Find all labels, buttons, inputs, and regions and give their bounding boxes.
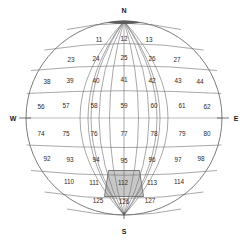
grid-cell-label-23[interactable]: 23 xyxy=(67,56,75,63)
cardinal-label-east: E xyxy=(234,115,239,122)
grid-cell-label-40[interactable]: 40 xyxy=(92,77,100,84)
grid-cell-label-93[interactable]: 93 xyxy=(66,156,74,163)
grid-cell-label-11[interactable]: 11 xyxy=(96,36,103,43)
grid-cell-label-41[interactable]: 41 xyxy=(120,76,128,83)
cardinal-label-south: S xyxy=(122,228,127,235)
grid-cell-label-13[interactable]: 13 xyxy=(145,36,153,43)
grid-cell-label-96[interactable]: 96 xyxy=(148,156,156,163)
grid-cell-label-24[interactable]: 24 xyxy=(92,55,100,62)
grid-cell-label-111[interactable]: 111 xyxy=(89,179,99,186)
grid-cell-label-110[interactable]: 110 xyxy=(64,178,75,185)
grid-cell-label-12[interactable]: 12 xyxy=(120,35,128,42)
grid-cell-label-43[interactable]: 43 xyxy=(174,77,182,84)
grid-cell-label-60[interactable]: 60 xyxy=(150,102,158,109)
grid-cell-label-39[interactable]: 39 xyxy=(66,77,74,84)
grid-cell-label-61[interactable]: 61 xyxy=(178,102,186,109)
grid-cell-label-97[interactable]: 97 xyxy=(174,156,182,163)
grid-cell-label-112[interactable]: 112 xyxy=(118,179,129,186)
grid-cell-label-77[interactable]: 77 xyxy=(120,130,128,137)
grid-cell-label-44[interactable]: 44 xyxy=(196,78,204,85)
grid-cell-label-126[interactable]: 126 xyxy=(119,198,130,205)
grid-cell-label-59[interactable]: 59 xyxy=(120,102,128,109)
grid-cell-label-27[interactable]: 27 xyxy=(173,56,181,63)
cardinal-label-north: N xyxy=(121,7,126,14)
grid-cell-label-42[interactable]: 42 xyxy=(148,77,156,84)
grid-cell-label-74[interactable]: 74 xyxy=(37,130,45,137)
grid-cell-label-92[interactable]: 92 xyxy=(43,155,51,162)
grid-cell-label-56[interactable]: 56 xyxy=(37,103,45,110)
globe-diagram-root: N S W E 11121323242526273839404142434456… xyxy=(0,0,248,241)
grid-cell-label-95[interactable]: 95 xyxy=(120,157,128,164)
globe-diagram-svg: N S W E 11121323242526273839404142434456… xyxy=(0,0,248,241)
grid-cell-label-75[interactable]: 75 xyxy=(62,130,70,137)
grid-cell-label-78[interactable]: 78 xyxy=(150,130,158,137)
cardinal-label-west: W xyxy=(10,115,17,122)
grid-cell-label-80[interactable]: 80 xyxy=(203,130,211,137)
grid-cell-label-76[interactable]: 76 xyxy=(90,130,98,137)
grid-cell-label-114[interactable]: 114 xyxy=(174,178,185,185)
grid-cell-label-127[interactable]: 127 xyxy=(145,197,156,204)
grid-cell-label-26[interactable]: 26 xyxy=(148,55,156,62)
grid-cell-label-94[interactable]: 94 xyxy=(92,156,100,163)
grid-cell-label-113[interactable]: 113 xyxy=(147,179,158,186)
grid-cell-label-125[interactable]: 125 xyxy=(93,197,104,204)
grid-cell-label-98[interactable]: 98 xyxy=(197,155,205,162)
grid-cell-label-58[interactable]: 58 xyxy=(90,102,98,109)
grid-cell-label-79[interactable]: 79 xyxy=(178,130,186,137)
grid-cell-label-57[interactable]: 57 xyxy=(62,102,70,109)
grid-cell-label-38[interactable]: 38 xyxy=(43,78,51,85)
grid-cell-label-62[interactable]: 62 xyxy=(203,103,211,110)
grid-cell-label-25[interactable]: 25 xyxy=(120,54,128,61)
